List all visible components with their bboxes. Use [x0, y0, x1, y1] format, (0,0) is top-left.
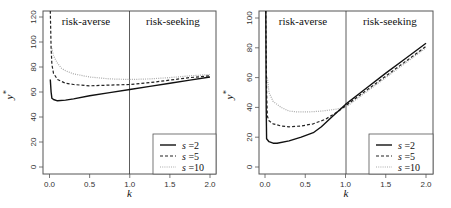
y-tick-label: 100 — [245, 11, 254, 25]
legend: s =2 s =5 s =10 — [153, 134, 216, 174]
y-axis-title: y* — [222, 91, 235, 101]
y-tick-label: 100 — [29, 35, 38, 49]
right-panel: risk-averse risk-seeking 020406080100 0.… — [222, 11, 433, 200]
series-line-dotted — [267, 48, 426, 112]
legend-label-s10: s =10 — [398, 162, 420, 173]
region-label-risk-seeking: risk-seeking — [146, 15, 200, 27]
legend-label-s2: s =2 — [182, 140, 199, 151]
x-tick-label: 2.0 — [204, 180, 216, 189]
region-label-risk-seeking: risk-seeking — [363, 15, 417, 27]
legend-label-s5: s =5 — [398, 151, 415, 162]
legend-label-s5: s =5 — [182, 151, 199, 162]
x-tick-label: 1.5 — [380, 180, 392, 189]
y-axis: 020406080100120 — [29, 10, 43, 169]
series-line-dotted — [52, 48, 210, 79]
y-axis: 020406080100 — [245, 11, 259, 169]
y-tick-label: 60 — [245, 73, 254, 82]
y-tick-label: 40 — [245, 102, 254, 111]
x-tick-label: 0.5 — [84, 180, 96, 189]
y-tick-label: 20 — [29, 137, 38, 146]
y-tick-label: 0 — [29, 164, 38, 169]
series-line-solid — [50, 77, 210, 101]
legend-label-s2: s =2 — [398, 140, 415, 151]
y-tick-label: 0 — [245, 164, 254, 169]
y-axis-title: y* — [2, 91, 15, 101]
x-tick-label: 0.5 — [300, 180, 312, 189]
x-tick-label: 1.5 — [164, 180, 176, 189]
x-tick-label: 0.0 — [44, 180, 56, 189]
y-tick-label: 80 — [245, 43, 254, 52]
y-tick-label: 120 — [29, 10, 38, 24]
region-label-risk-averse: risk-averse — [62, 15, 110, 27]
x-tick-label: 0.0 — [259, 180, 271, 189]
left-panel: risk-averse risk-seeking 020406080100120… — [2, 10, 216, 199]
y-tick-label: 80 — [29, 62, 38, 71]
y-tick-label: 20 — [245, 132, 254, 141]
figure: risk-averse risk-seeking 020406080100120… — [0, 0, 451, 208]
region-label-risk-averse: risk-averse — [279, 15, 327, 27]
legend: s =2 s =5 s =10 — [369, 134, 433, 174]
y-tick-label: 60 — [29, 87, 38, 96]
legend-label-s10: s =10 — [182, 162, 204, 173]
y-tick-label: 40 — [29, 112, 38, 121]
x-tick-label: 2.0 — [420, 180, 432, 189]
